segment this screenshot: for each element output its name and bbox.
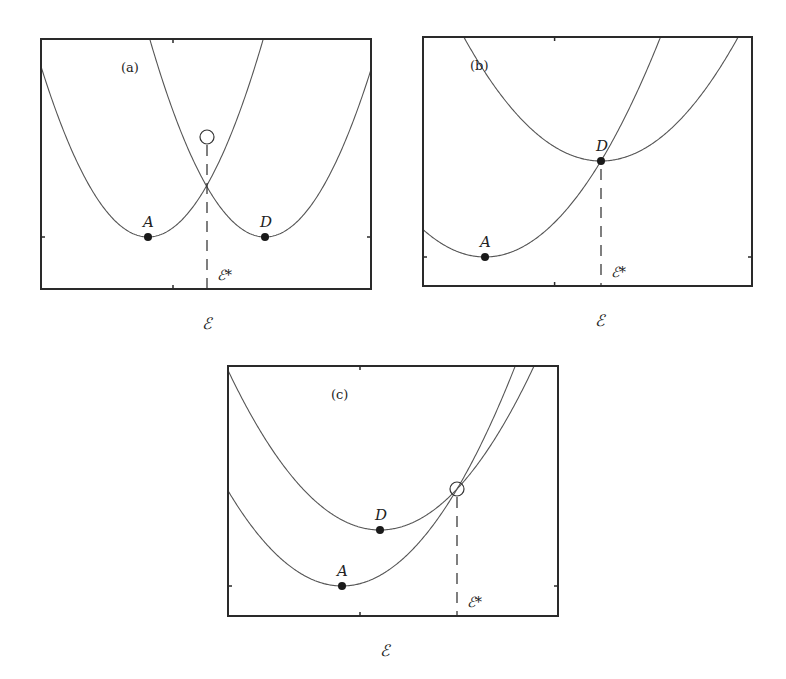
- panel-b-ticks: [423, 37, 752, 286]
- diabatic-energy-curves-figure: (a) A D ℰ* ℰ (b) A D ℰ* ℰ (c) A D ℰ* ℰ: [0, 0, 786, 679]
- panel-c-threshold-label: ℰ*: [467, 594, 482, 610]
- panel-c-x-axis-label: ℰ: [380, 641, 392, 660]
- panel-b-point-a-dot-icon: [481, 253, 489, 261]
- panel-b-point-d-label: D: [595, 137, 608, 155]
- panel-b-x-axis-label: ℰ: [595, 311, 607, 330]
- panel-a: (a) A D ℰ* ℰ: [41, 0, 371, 333]
- panel-c-frame: [228, 366, 558, 616]
- panel-c-point-d-dot-icon: [376, 526, 384, 534]
- panel-a-point-a-dot-icon: [144, 233, 152, 241]
- energy-curve-d: [41, 0, 371, 237]
- panel-c: (c) A D ℰ* ℰ: [228, 244, 558, 660]
- panel-a-label: (a): [121, 60, 139, 75]
- panel-a-threshold-label: ℰ*: [217, 267, 232, 283]
- panel-c-ticks: [228, 366, 558, 616]
- panel-b-point-d-dot-icon: [597, 157, 605, 165]
- panel-b-curves: [423, 0, 752, 257]
- panel-a-point-d-dot-icon: [261, 233, 269, 241]
- panel-b-threshold-label: ℰ*: [611, 264, 626, 280]
- energy-curve-d: [228, 311, 558, 530]
- energy-curve-a: [41, 0, 371, 237]
- panel-a-curves: [41, 0, 371, 237]
- panel-b-frame: [423, 37, 752, 286]
- panel-b-point-a-label: A: [478, 233, 491, 251]
- panel-a-point-d-label: D: [259, 213, 272, 231]
- panel-a-x-axis-label: ℰ: [202, 314, 214, 333]
- energy-curve-a: [423, 0, 752, 257]
- panel-b-label: (b): [470, 58, 488, 73]
- energy-curve-d: [423, 0, 752, 161]
- panel-c-point-a-dot-icon: [338, 582, 346, 590]
- panel-a-point-a-label: A: [141, 213, 154, 231]
- panel-c-curves: [228, 244, 558, 586]
- panel-c-point-a-label: A: [335, 562, 348, 580]
- panel-c-point-d-label: D: [374, 506, 387, 524]
- panel-c-label: (c): [331, 387, 348, 402]
- panel-a-crossing-circle-icon: [200, 130, 214, 144]
- panel-a-ticks: [41, 39, 371, 289]
- panel-b: (b) A D ℰ* ℰ: [423, 0, 752, 330]
- panel-a-frame: [41, 39, 371, 289]
